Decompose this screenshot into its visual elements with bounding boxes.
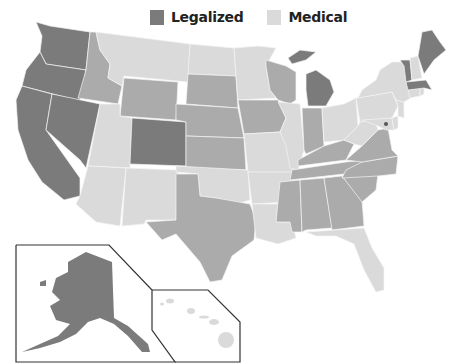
- hawaii-island-niihau[interactable]: [160, 303, 164, 306]
- state-south-dakota[interactable]: [186, 74, 238, 108]
- state-maine[interactable]: [418, 30, 446, 74]
- state-indiana[interactable]: [302, 108, 324, 154]
- hawaii-island-maui[interactable]: [209, 319, 219, 325]
- state-wyoming[interactable]: [120, 78, 178, 120]
- state-kansas[interactable]: [186, 136, 246, 170]
- hawaii-island-big-island[interactable]: [218, 332, 234, 348]
- hawaii-island-kauai[interactable]: [166, 299, 174, 304]
- hawaii-inset-border: [152, 290, 240, 362]
- state-florida[interactable]: [306, 228, 384, 292]
- state-nebraska[interactable]: [176, 104, 244, 138]
- hawaii-island-oahu[interactable]: [187, 308, 195, 314]
- state-district-of-columbia[interactable]: [384, 122, 388, 126]
- state-montana[interactable]: [96, 32, 190, 86]
- hawaii-island-molokai[interactable]: [199, 315, 209, 318]
- alaska-island: [40, 280, 46, 286]
- state-iowa[interactable]: [238, 100, 286, 134]
- state-massachusetts[interactable]: [406, 80, 432, 90]
- state-new-jersey[interactable]: [396, 100, 404, 118]
- state-arizona[interactable]: [76, 166, 126, 226]
- state-michigan-lower[interactable]: [306, 70, 334, 106]
- state-new-mexico[interactable]: [122, 168, 178, 226]
- state-north-dakota[interactable]: [188, 44, 236, 76]
- us-map: [0, 0, 462, 364]
- state-michigan[interactable]: [288, 50, 316, 64]
- state-rhode-island[interactable]: [420, 88, 424, 96]
- state-colorado[interactable]: [130, 118, 186, 166]
